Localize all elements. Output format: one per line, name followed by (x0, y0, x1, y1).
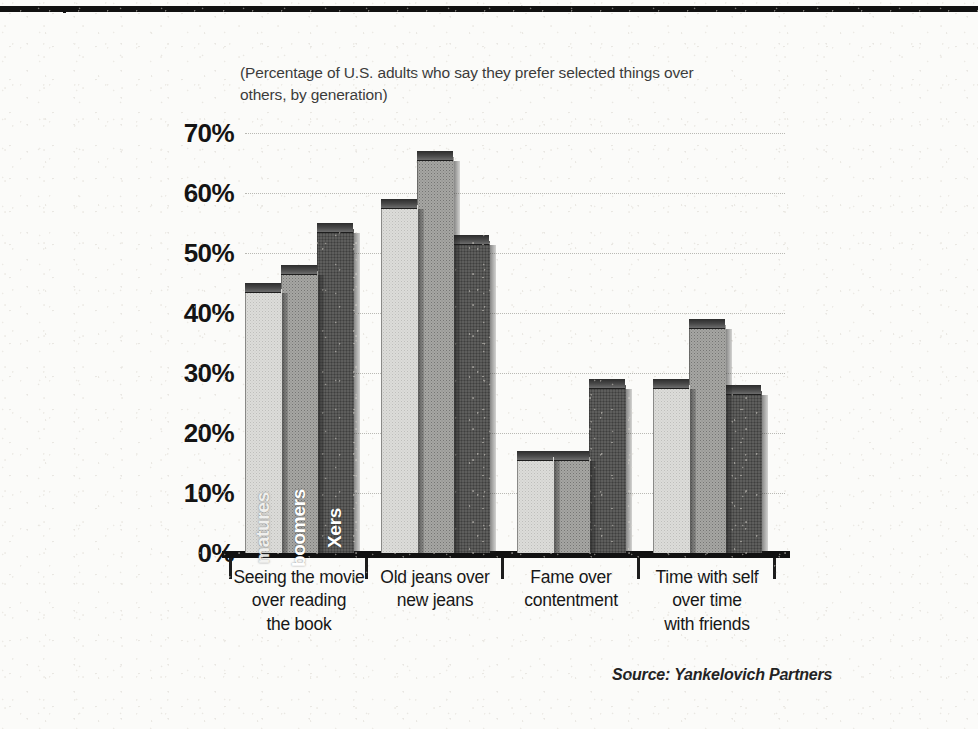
category-label-line: over time (639, 589, 775, 612)
bar-side-shadow (281, 293, 288, 553)
bar-front-face (517, 457, 554, 553)
bar-matures-group2 (381, 205, 417, 553)
bar-side-shadow (761, 395, 768, 553)
bar-side-shadow (453, 161, 460, 553)
y-tick-label-20: 20% (168, 418, 234, 449)
bar-top-face (689, 319, 725, 329)
bar-side-shadow (725, 329, 732, 553)
category-label-line: Old jeans over (367, 566, 503, 589)
bar-top-face (317, 223, 353, 233)
category-label-3: Fame overcontentment (503, 566, 639, 613)
category-label-line: Time with self (639, 566, 775, 589)
bar-top-face (381, 199, 417, 209)
y-tick-label-40: 40% (168, 298, 234, 329)
bar-group-2 (381, 133, 489, 553)
category-label-line: new jeans (367, 589, 503, 612)
y-tick-label-60: 60% (168, 178, 234, 209)
bar-front-face (653, 385, 690, 553)
bar-matures-group1: matures (245, 289, 281, 553)
y-tick-label-10: 10% (168, 478, 234, 509)
bar-top-face (517, 451, 553, 461)
bar-top-face (589, 379, 625, 389)
bar-side-shadow (689, 389, 696, 553)
bar-group-1: maturesboomersXers (245, 133, 353, 553)
series-label-xers: Xers (324, 508, 346, 548)
bar-top-face (245, 283, 281, 293)
bar-matures-group3 (517, 457, 553, 553)
bar-side-shadow (553, 461, 560, 553)
bar-group-4 (653, 133, 761, 553)
chart-plot-area: 70%60%50%40%30%20%10%0% maturesboomersXe… (0, 0, 978, 729)
category-label-line: over reading (231, 589, 367, 612)
y-tick-label-50: 50% (168, 238, 234, 269)
y-tick-label-30: 30% (168, 358, 234, 389)
source-attribution: Source: Yankelovich Partners (612, 666, 832, 684)
y-tick-label-70: 70% (168, 118, 234, 149)
bar-top-face (417, 151, 453, 161)
bar-top-face (653, 379, 689, 389)
category-label-line: Fame over (503, 566, 639, 589)
bar-group-3 (517, 133, 625, 553)
category-label-line: with friends (639, 613, 775, 636)
bar-side-shadow (589, 461, 596, 553)
bar-top-face (281, 265, 317, 275)
bar-matures-group4 (653, 385, 689, 553)
series-label-matures: matures (252, 492, 274, 564)
category-label-line: contentment (503, 589, 639, 612)
bar-side-shadow (353, 233, 360, 553)
category-label-2: Old jeans overnew jeans (367, 566, 503, 613)
bar-front-face (381, 205, 418, 553)
category-label-1: Seeing the movieover readingthe book (231, 566, 367, 636)
category-label-4: Time with selfover timewith friends (639, 566, 775, 636)
bar-top-face (553, 451, 589, 461)
bar-side-shadow (417, 209, 424, 553)
bar-side-shadow (489, 245, 496, 553)
series-label-boomers: boomers (288, 489, 310, 567)
category-label-line: Seeing the movie (231, 566, 367, 589)
category-label-line: the book (231, 613, 367, 636)
bar-side-shadow (625, 389, 632, 553)
bar-side-shadow (317, 275, 324, 553)
